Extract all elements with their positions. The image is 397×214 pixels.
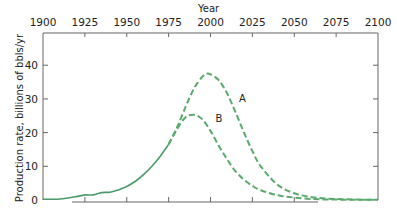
- x-axis-title: Year: [197, 3, 220, 14]
- x-tick-label: 2050: [281, 16, 308, 28]
- x-axis-ticks: 190019251950197520002025205020752100: [30, 16, 392, 202]
- x-tick-label: 1975: [155, 16, 182, 28]
- y-axis-title: Production rate, billions of bbls/yr: [14, 33, 25, 202]
- x-tick-label: 1950: [113, 16, 140, 28]
- y-axis-ticks: 010203040: [25, 59, 378, 206]
- x-tick-label: 2000: [197, 16, 224, 28]
- x-tick-label: 1900: [30, 16, 57, 28]
- data-series: [43, 73, 378, 199]
- series-line-b: [169, 115, 378, 200]
- x-tick-label: 2075: [323, 16, 350, 28]
- plot-axes: [43, 33, 378, 202]
- oil-production-chart: Year Production rate, billions of bbls/y…: [0, 0, 397, 214]
- y-tick-label: 10: [25, 160, 38, 172]
- y-tick-label: 0: [31, 194, 38, 206]
- x-tick-label: 2100: [365, 16, 392, 28]
- series-line-a: [169, 73, 378, 199]
- series-line-historical: [43, 144, 169, 199]
- y-tick-label: 40: [25, 59, 38, 71]
- x-tick-label: 2025: [239, 16, 266, 28]
- y-tick-label: 30: [25, 93, 38, 105]
- y-tick-label: 20: [25, 127, 38, 139]
- series-b-label: B: [216, 113, 223, 124]
- x-tick-label: 1925: [72, 16, 99, 28]
- series-a-label: A: [239, 93, 246, 104]
